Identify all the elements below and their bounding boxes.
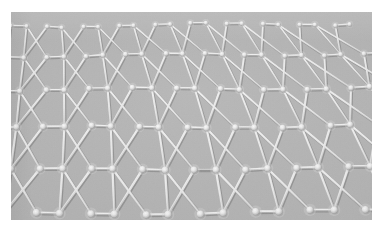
micrograph-panel [11, 12, 372, 220]
page-root [0, 0, 383, 227]
honeycomb-lattice-image [11, 12, 372, 220]
